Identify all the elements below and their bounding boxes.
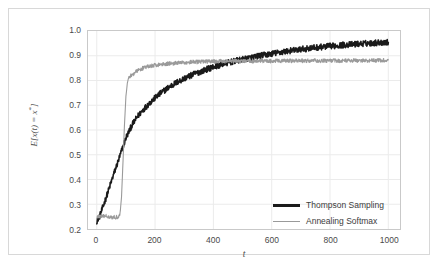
y-axis-title-prefix: E[x(t) = x: [29, 110, 39, 146]
legend-item[interactable]: Thompson Sampling: [273, 199, 384, 211]
x-tick-label: 0: [76, 236, 116, 245]
y-tick-label: 0.4: [51, 176, 81, 185]
y-tick-label: 0.3: [51, 201, 81, 210]
legend-line-swatch: [273, 204, 300, 207]
x-tick-label: 400: [193, 236, 233, 245]
series-line-annealing-softmax: [97, 58, 389, 219]
series-lines: [97, 39, 389, 224]
y-tick-label: 0.6: [51, 126, 81, 135]
y-tick-label: 0.5: [51, 151, 81, 160]
x-tick-label: 800: [311, 236, 351, 245]
series-line-thompson-sampling: [97, 39, 389, 224]
y-axis-title-superscript: *: [27, 107, 35, 111]
y-axis-title-suffix: ]: [29, 103, 39, 107]
chart-legend: Thompson SamplingAnnealing Softmax: [273, 199, 384, 227]
legend-line-swatch: [273, 221, 300, 222]
x-tick-label: 200: [134, 236, 174, 245]
x-tick-label: 600: [252, 236, 292, 245]
y-tick-label: 0.7: [51, 101, 81, 110]
y-tick-label: 1.0: [51, 26, 81, 35]
x-tick-label: 1000: [369, 236, 409, 245]
figure-root: 0.20.30.40.50.60.70.80.91.0 020040060080…: [0, 0, 439, 270]
y-axis-title: E[x(t) = x*]: [27, 55, 39, 195]
y-tick-label: 0.8: [51, 76, 81, 85]
y-tick-label: 0.9: [51, 51, 81, 60]
y-tick-label: 0.2: [51, 226, 81, 235]
figure-frame: 0.20.30.40.50.60.70.80.91.0 020040060080…: [8, 8, 430, 255]
legend-label: Annealing Softmax: [306, 217, 377, 226]
x-axis-title: t: [87, 249, 401, 259]
legend-item[interactable]: Annealing Softmax: [273, 215, 384, 227]
legend-label: Thompson Sampling: [306, 201, 384, 210]
